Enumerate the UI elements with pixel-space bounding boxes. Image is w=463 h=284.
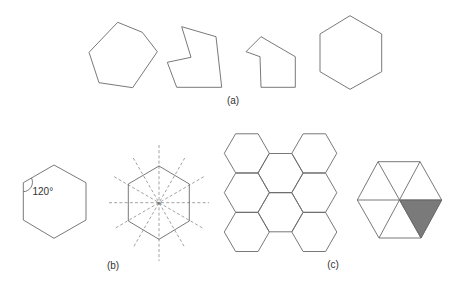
concave-hexagon	[167, 27, 221, 88]
tessellation-hexagon	[224, 173, 269, 212]
part-b: 120° π (b)	[23, 145, 209, 271]
hexagon-interior-angle	[23, 165, 86, 238]
part-c: (c)	[224, 134, 441, 270]
angle-label: 120°	[33, 186, 54, 197]
tessellation-hexagon	[224, 134, 269, 173]
part-b-label: (b)	[107, 260, 119, 271]
part-a-label: (a)	[227, 95, 239, 106]
center-label: π	[157, 200, 161, 206]
hexagon-figure: (a) 120° π (b) (c)	[0, 0, 463, 284]
triangle-divisions	[357, 162, 441, 238]
regular-hexagon	[320, 16, 382, 90]
shaded-triangle	[400, 200, 442, 238]
tessellation-hexagon	[292, 213, 337, 252]
concave-hexagon-2	[246, 37, 295, 88]
hexagon-tessellation	[224, 134, 336, 252]
tessellation-hexagon	[224, 213, 269, 252]
tessellation-hexagon	[292, 173, 337, 212]
tessellation-hexagon	[292, 134, 337, 173]
part-c-label: (c)	[327, 259, 339, 270]
irregular-convex-hexagon	[89, 22, 157, 87]
tessellation-hexagon	[258, 154, 303, 193]
tessellation-hexagon	[258, 193, 303, 232]
part-a: (a)	[89, 16, 382, 106]
